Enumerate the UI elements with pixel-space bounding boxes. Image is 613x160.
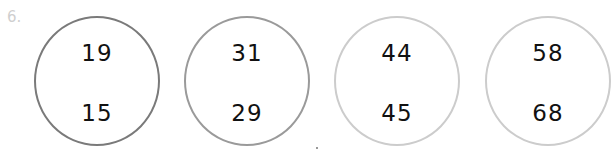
circle-top-number: 58 xyxy=(487,40,609,66)
circle-bottom-number: 45 xyxy=(336,100,458,126)
problem-number: 6. xyxy=(7,8,21,26)
stray-dot xyxy=(316,147,318,149)
number-circle-2: 31 29 xyxy=(184,16,310,146)
number-circle-3: 44 45 xyxy=(334,16,460,146)
circle-bottom-number: 15 xyxy=(36,100,158,126)
circle-top-number: 31 xyxy=(186,40,308,66)
circle-top-number: 44 xyxy=(336,40,458,66)
circle-bottom-number: 29 xyxy=(186,100,308,126)
circle-top-number: 19 xyxy=(36,40,158,66)
number-circle-4: 58 68 xyxy=(485,16,611,146)
circle-bottom-number: 68 xyxy=(487,100,609,126)
number-circle-1: 19 15 xyxy=(34,16,160,146)
